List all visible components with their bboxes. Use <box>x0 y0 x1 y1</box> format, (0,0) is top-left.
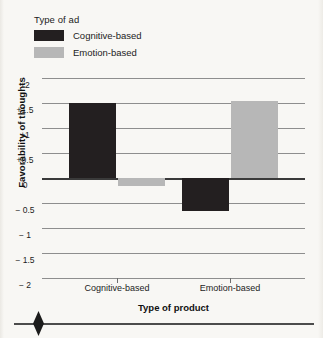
footer-rule <box>14 323 314 325</box>
y-tick-label: − 0.5 <box>8 205 42 215</box>
y-tick-label: 0 <box>8 180 42 190</box>
gridline <box>42 278 305 279</box>
gridline <box>42 228 305 229</box>
x-axis-title: Type of product <box>42 302 305 313</box>
x-tick-label-emotion-based: Emotion-based <box>200 283 261 293</box>
bar-emotion-based-cognitive-based <box>182 178 229 211</box>
y-tick-label: +1 <box>8 130 42 140</box>
gridline <box>42 78 305 79</box>
y-tick-label: − 2 <box>8 280 42 290</box>
y-tick-label: +0.5 <box>8 155 42 165</box>
plot-area: Type of product +2+1.5+1+0.50− 0.5− 1− 1… <box>42 78 305 278</box>
bar-cognitive-based-emotion-based <box>118 178 165 186</box>
bar-cognitive-based-cognitive-based <box>69 103 116 178</box>
y-tick-label: +1.5 <box>8 105 42 115</box>
plot-wrapper: Favorability of thoughts Type of product… <box>0 0 323 338</box>
y-tick-label: − 1.5 <box>8 255 42 265</box>
gridline <box>42 253 305 254</box>
x-tick-label-cognitive-based: Cognitive-based <box>84 283 149 293</box>
y-tick-label: − 1 <box>8 230 42 240</box>
zero-line <box>42 178 305 180</box>
y-tick-label: +2 <box>8 80 42 90</box>
bar-emotion-based-emotion-based <box>231 101 278 179</box>
figure-container: Type of ad Cognitive-based Emotion-based… <box>0 0 323 338</box>
gridline <box>42 203 305 204</box>
